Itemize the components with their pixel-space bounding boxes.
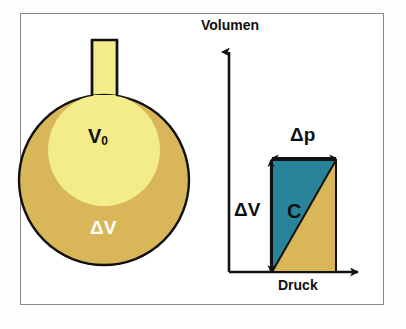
flask-v0-subscript: 0 — [101, 134, 108, 148]
flask-delta-v-label: ΔV — [90, 218, 116, 237]
chart-delta-v-label: ΔV — [234, 200, 260, 219]
flask-inner-volume-v0 — [48, 94, 160, 206]
delta-p-label: Δp — [290, 125, 315, 144]
compliance-region-label: C — [287, 201, 301, 221]
y-axis-label: Volumen — [201, 18, 259, 32]
flask-v0-letter: V — [88, 125, 101, 147]
diagram-canvas — [0, 0, 406, 329]
flask-v0-label: V0 — [88, 126, 108, 147]
chart-group — [229, 52, 358, 272]
figure-root: V0 ΔV Volumen Druck Δp ΔV C — [0, 0, 406, 329]
x-axis-label: Druck — [278, 278, 318, 292]
